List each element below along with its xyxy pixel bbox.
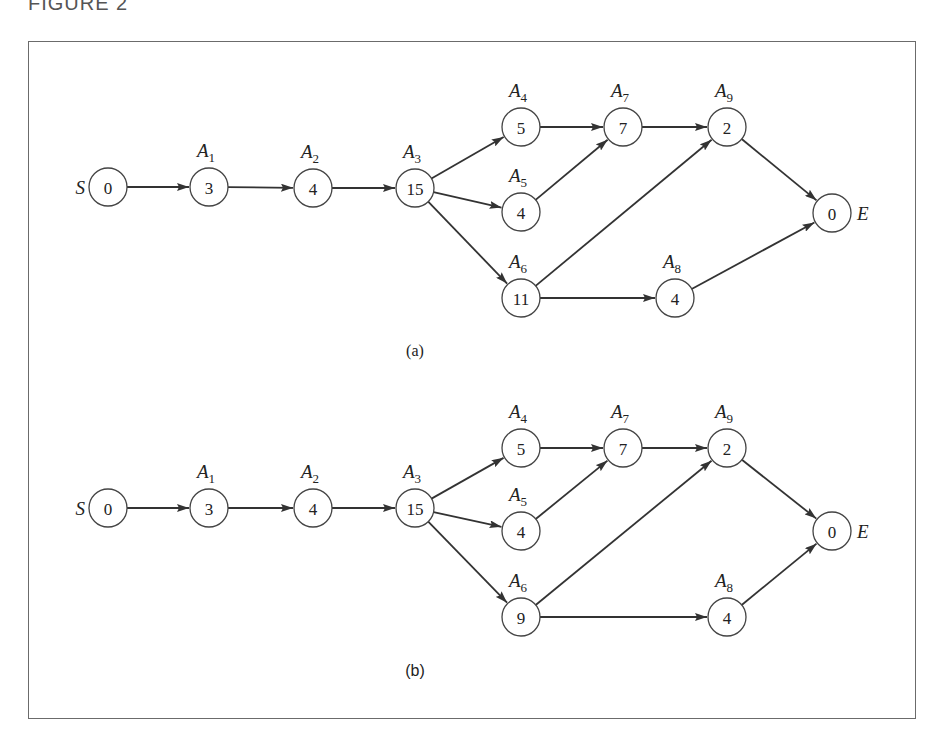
node-value: 4 — [309, 180, 318, 199]
node-value: 9 — [517, 609, 526, 628]
node-label: A7 — [609, 401, 630, 426]
node-value: 15 — [407, 180, 424, 199]
node-value: 0 — [828, 205, 837, 224]
node-label: A1 — [195, 140, 215, 165]
node-label: A6 — [507, 251, 528, 276]
edge-a8-e — [742, 544, 817, 605]
node-value: 2 — [723, 119, 732, 138]
panel-caption-a: (a) — [406, 342, 424, 360]
node-label: A1 — [195, 461, 215, 486]
edge-a3-a6 — [428, 522, 507, 603]
node-a1: 3A1 — [190, 140, 228, 206]
network-diagram: 0S3A14A215A35A44A511A67A74A82A90E(a) 0S3… — [0, 0, 950, 745]
node-a6: 9A6 — [502, 570, 540, 636]
node-label: A4 — [507, 80, 528, 105]
node-value: 5 — [517, 440, 526, 459]
node-a7: 7A7 — [604, 80, 642, 146]
node-value: 3 — [205, 179, 214, 198]
node-value: 0 — [828, 523, 837, 542]
node-value: 7 — [619, 119, 628, 138]
node-a6: 11A6 — [502, 251, 540, 317]
node-label: E — [856, 521, 869, 542]
edge-a3-a4 — [432, 458, 504, 499]
node-value: 0 — [104, 179, 113, 198]
node-a9: 2A9 — [708, 80, 746, 146]
node-a2: 4A2 — [294, 461, 332, 527]
node-value: 4 — [309, 500, 318, 519]
node-label: A2 — [299, 141, 319, 166]
node-value: 4 — [517, 204, 526, 223]
node-label: A4 — [507, 401, 528, 426]
node-s: 0S — [76, 168, 128, 206]
node-e: 0E — [813, 194, 869, 232]
panel-b: 0S3A14A215A35A44A59A67A74A82A90E(b) — [76, 401, 870, 679]
edge-a3-a5 — [434, 192, 502, 207]
node-a9: 2A9 — [708, 401, 746, 467]
node-a3: 15A3 — [396, 461, 434, 527]
node-label: A3 — [401, 461, 421, 486]
node-e: 0E — [813, 512, 869, 550]
node-value: 11 — [513, 290, 529, 309]
node-value: 2 — [723, 440, 732, 459]
edge-a8-e — [692, 223, 815, 289]
node-a7: 7A7 — [604, 401, 642, 467]
node-value: 5 — [517, 119, 526, 138]
edge-a9-e — [742, 460, 816, 519]
node-value: 7 — [619, 440, 628, 459]
node-label: A5 — [507, 165, 527, 190]
edge-a3-a4 — [431, 137, 503, 179]
node-s: 0S — [76, 489, 128, 527]
node-value: 4 — [517, 523, 526, 542]
edge-a5-a7 — [536, 140, 608, 200]
panel-caption-b: (b) — [405, 662, 425, 679]
node-value: 3 — [205, 500, 214, 519]
node-a4: 5A4 — [502, 401, 540, 467]
node-value: 15 — [407, 500, 424, 519]
node-value: 4 — [723, 609, 732, 628]
node-value: 4 — [671, 290, 680, 309]
node-label: A8 — [661, 251, 681, 276]
edge-a5-a7 — [536, 461, 608, 519]
edge-a1-a2 — [228, 187, 293, 188]
node-a5: 4A5 — [502, 165, 540, 231]
node-label: A9 — [713, 401, 733, 426]
edge-a6-a9 — [536, 140, 712, 286]
node-label: S — [76, 177, 86, 198]
node-label: E — [856, 203, 869, 224]
node-a3: 15A3 — [396, 141, 434, 207]
edge-a3-a6 — [428, 202, 507, 284]
edge-a9-e — [742, 139, 817, 200]
node-a1: 3A1 — [190, 461, 228, 527]
edge-a3-a5 — [434, 512, 502, 527]
node-label: S — [76, 498, 86, 519]
node-a8: 4A8 — [708, 570, 746, 636]
node-label: A6 — [507, 570, 528, 595]
node-label: A3 — [401, 141, 421, 166]
panel-a: 0S3A14A215A35A44A511A67A74A82A90E(a) — [76, 80, 870, 360]
node-a5: 4A5 — [502, 484, 540, 550]
node-label: A8 — [713, 570, 733, 595]
node-label: A9 — [713, 80, 733, 105]
node-a4: 5A4 — [502, 80, 540, 146]
node-a8: 4A8 — [656, 251, 694, 317]
node-label: A2 — [299, 461, 319, 486]
node-a2: 4A2 — [294, 141, 332, 207]
node-label: A5 — [507, 484, 527, 509]
node-label: A7 — [609, 80, 630, 105]
edge-a6-a9 — [536, 461, 712, 605]
node-value: 0 — [104, 500, 113, 519]
